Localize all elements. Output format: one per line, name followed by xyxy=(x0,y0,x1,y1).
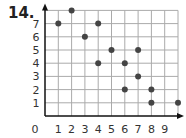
x-tick-label: 0 xyxy=(32,123,39,136)
y-tick-label: 7 xyxy=(33,18,40,31)
data-point xyxy=(69,7,75,13)
x-tick-label: 5 xyxy=(108,123,115,136)
x-tick-label: 1 xyxy=(55,123,62,136)
x-tick-label: 2 xyxy=(68,123,75,136)
x-tick-label: 4 xyxy=(95,123,102,136)
y-tick-label: 4 xyxy=(33,57,40,70)
x-tick-label: 3 xyxy=(81,123,88,136)
data-point xyxy=(135,47,141,53)
y-tick-label: 5 xyxy=(33,44,40,57)
data-point xyxy=(122,60,128,66)
data-point xyxy=(109,47,115,53)
scatter-chart: 01234567891234567 xyxy=(0,0,186,138)
data-point xyxy=(175,100,181,106)
x-tick-label: 9 xyxy=(161,123,168,136)
y-tick-label: 3 xyxy=(33,70,40,83)
x-tick-label: 7 xyxy=(135,123,142,136)
x-axis-arrow-icon xyxy=(177,113,184,119)
data-point xyxy=(95,60,101,66)
data-point xyxy=(55,21,61,27)
y-tick-label: 1 xyxy=(33,97,40,110)
data-point xyxy=(135,73,141,79)
x-tick-label: 6 xyxy=(121,123,128,136)
data-point xyxy=(95,21,101,27)
y-tick-label: 2 xyxy=(33,84,40,97)
data-point xyxy=(122,87,128,93)
x-tick-label: 8 xyxy=(148,123,155,136)
data-point xyxy=(148,100,154,106)
y-tick-label: 6 xyxy=(33,31,40,44)
data-point xyxy=(148,87,154,93)
y-axis-arrow-icon xyxy=(42,3,48,10)
data-point xyxy=(82,34,88,40)
